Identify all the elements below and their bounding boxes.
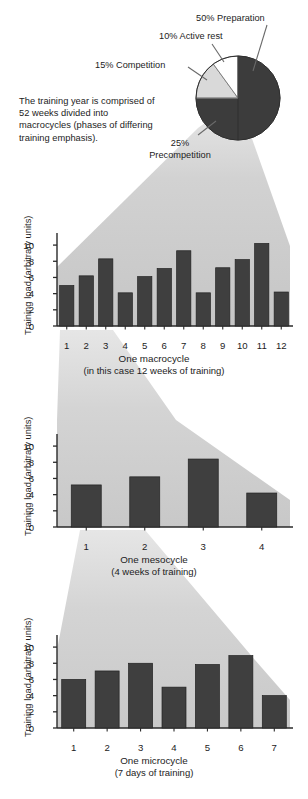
bar — [62, 679, 86, 728]
bar — [177, 251, 191, 326]
bar — [216, 268, 230, 326]
bar — [71, 485, 101, 527]
bar — [274, 292, 288, 326]
bar — [118, 293, 132, 326]
bar — [99, 259, 113, 326]
bar — [129, 663, 153, 728]
bar — [196, 293, 210, 326]
figure-root: 50% Preparation 10% Active rest 15% Comp… — [0, 0, 308, 799]
bar — [157, 269, 171, 326]
bar — [60, 286, 74, 326]
bar — [188, 459, 218, 527]
bar — [138, 277, 152, 326]
bar — [130, 477, 160, 527]
bar — [229, 656, 253, 728]
bar — [79, 276, 93, 326]
bar — [255, 243, 269, 326]
bar — [195, 664, 219, 728]
bar — [162, 687, 186, 728]
bar — [247, 493, 277, 527]
bar — [262, 696, 286, 728]
bar-charts-layer — [0, 0, 308, 799]
bar — [235, 260, 249, 326]
bar — [95, 671, 119, 728]
